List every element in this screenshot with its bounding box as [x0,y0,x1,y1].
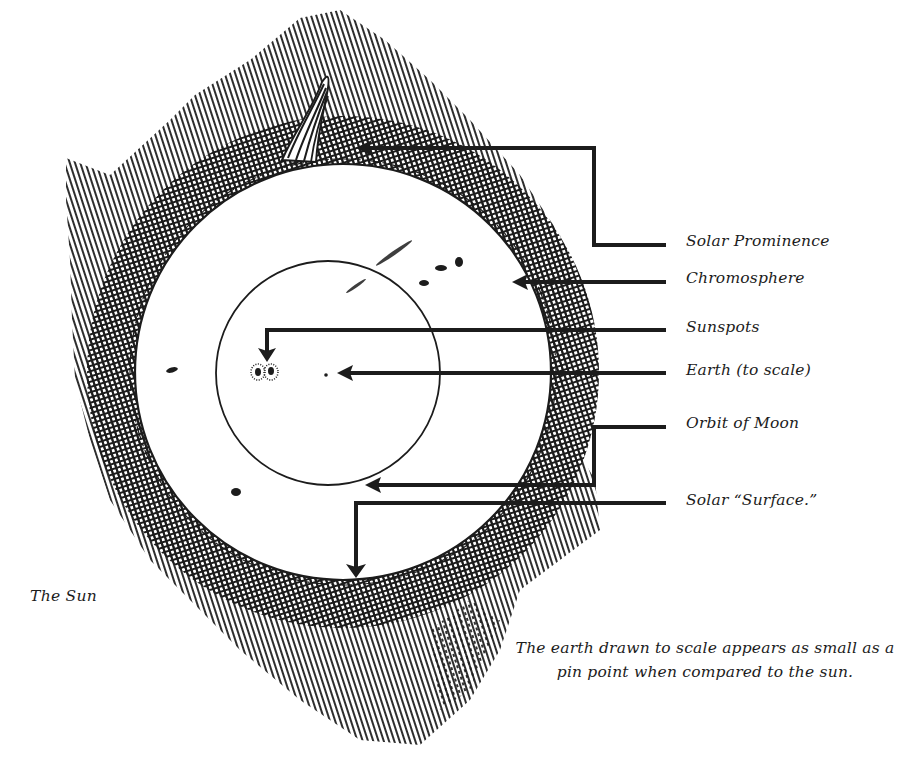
figure-caption: The earth drawn to scale appears as smal… [495,636,915,684]
label-solar-surface: Solar “Surface.” [686,491,817,509]
caption-line-2: pin point when compared to the sun. [495,660,915,684]
caption-line-1: The earth drawn to scale appears as smal… [495,636,915,660]
label-earth-text: Earth [686,361,731,379]
label-sunspots: Sunspots [686,318,760,336]
label-solar-prominence: Solar Prominence [686,232,830,250]
figure-title: The Sun [30,587,97,605]
sun-diagram: Solar Prominence Chromosphere Sunspots E… [0,0,920,757]
label-orbit-of-moon: Orbit of Moon [686,414,799,432]
label-earth-suffix: (to scale) [736,361,811,379]
label-chromosphere: Chromosphere [686,269,805,287]
earth-dot [324,373,328,377]
label-earth: Earth (to scale) [686,361,811,379]
